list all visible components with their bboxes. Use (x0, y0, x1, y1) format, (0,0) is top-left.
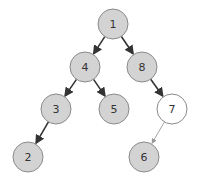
edge-4-3 (65, 79, 76, 95)
node-label: 4 (82, 61, 89, 74)
edge-1-8 (121, 36, 133, 53)
tree-node-8: 8 (127, 52, 157, 82)
tree-node-3: 3 (41, 94, 71, 124)
node-label: 7 (169, 103, 176, 116)
node-label: 6 (141, 151, 148, 164)
tree-node-5: 5 (99, 94, 129, 124)
edge-7-6 (152, 122, 164, 143)
edge-1-4 (94, 37, 105, 54)
edge-8-7 (151, 79, 163, 96)
tree-node-4: 4 (70, 52, 100, 82)
tree-node-6: 6 (129, 142, 159, 172)
tree-node-7: 7 (157, 94, 187, 124)
edge-4-5 (94, 79, 105, 95)
node-label: 2 (25, 151, 32, 164)
node-label: 8 (139, 61, 146, 74)
node-label: 3 (53, 103, 60, 116)
tree-diagram: 14835726 (0, 0, 199, 178)
tree-node-2: 2 (13, 142, 43, 172)
edge-3-2 (36, 122, 48, 143)
node-label: 5 (111, 103, 118, 116)
node-label: 1 (110, 18, 117, 31)
tree-node-1: 1 (98, 9, 128, 39)
